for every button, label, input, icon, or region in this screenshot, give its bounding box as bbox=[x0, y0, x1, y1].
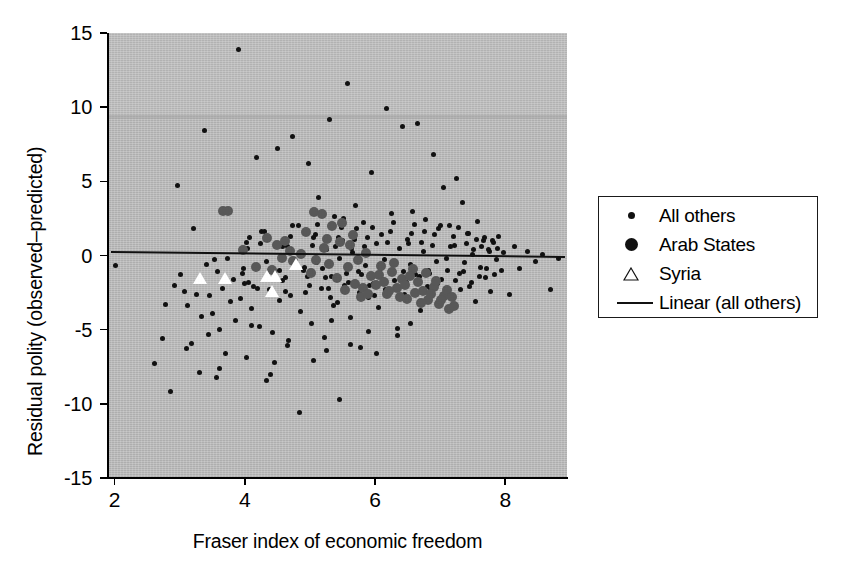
data-point-all-others bbox=[512, 244, 517, 249]
data-point-arab-state bbox=[301, 227, 311, 237]
legend-label-all-others: All others bbox=[659, 203, 735, 228]
y-axis-tick-label: -10 bbox=[48, 394, 92, 414]
y-axis-line bbox=[107, 33, 109, 479]
data-point-all-others bbox=[482, 235, 487, 240]
y-axis-tick-label: 0 bbox=[48, 246, 92, 266]
y-axis-title: Residual polity (observed–predicted) bbox=[24, 147, 47, 456]
y-axis-tick-label: 15 bbox=[48, 23, 92, 43]
data-point-all-others bbox=[296, 223, 301, 228]
data-point-arab-state bbox=[348, 230, 358, 240]
y-axis-tick bbox=[100, 477, 107, 479]
line-segment-icon bbox=[615, 288, 655, 317]
data-point-all-others bbox=[395, 326, 400, 331]
data-point-all-others bbox=[365, 235, 370, 240]
data-point-all-others bbox=[319, 286, 324, 291]
data-point-all-others bbox=[313, 232, 318, 237]
legend-label-arab-states: Arab States bbox=[659, 232, 755, 257]
data-point-arab-state bbox=[343, 262, 353, 272]
data-point-all-others bbox=[326, 286, 331, 291]
data-point-all-others bbox=[525, 249, 530, 254]
data-point-all-others bbox=[197, 370, 202, 375]
x-axis-tick bbox=[374, 478, 376, 485]
data-point-all-others bbox=[478, 265, 483, 270]
data-point-all-others bbox=[327, 117, 332, 122]
legend-item-all-others[interactable]: All others bbox=[599, 201, 817, 230]
data-point-all-others bbox=[175, 183, 180, 188]
data-point-all-others bbox=[409, 231, 414, 236]
data-point-all-others bbox=[434, 259, 439, 264]
data-point-all-others bbox=[477, 274, 482, 279]
data-point-all-others bbox=[421, 249, 426, 254]
data-point-all-others bbox=[418, 308, 423, 313]
data-point-all-others bbox=[496, 234, 501, 239]
data-point-arab-state bbox=[416, 298, 426, 308]
y-axis-tick bbox=[100, 106, 107, 108]
data-point-arab-state bbox=[223, 206, 233, 216]
data-point-arab-state bbox=[340, 285, 350, 295]
data-point-syria bbox=[268, 270, 282, 282]
data-point-all-others bbox=[255, 286, 260, 291]
legend-item-linear[interactable]: Linear (all others) bbox=[599, 288, 817, 317]
data-point-all-others bbox=[172, 283, 177, 288]
x-axis-tick-label: 6 bbox=[355, 489, 395, 510]
data-point-arab-state bbox=[317, 209, 327, 219]
data-point-all-others bbox=[223, 351, 228, 356]
y-axis-tick-label: 5 bbox=[48, 171, 92, 191]
legend-label-syria: Syria bbox=[659, 261, 701, 286]
data-point-syria bbox=[289, 258, 303, 270]
x-axis-tick bbox=[504, 478, 506, 485]
data-point-all-others bbox=[444, 256, 449, 261]
data-point-all-others bbox=[369, 170, 374, 175]
data-point-all-others bbox=[268, 372, 273, 377]
data-point-arab-state bbox=[426, 289, 436, 299]
data-point-all-others bbox=[270, 330, 275, 335]
chart-legend: All others Arab States Syria Linear (all… bbox=[598, 196, 818, 318]
x-axis-line bbox=[107, 477, 568, 479]
data-point-all-others bbox=[345, 81, 350, 86]
data-point-all-others bbox=[277, 298, 282, 303]
data-point-all-others bbox=[328, 295, 333, 300]
data-point-arab-state bbox=[335, 237, 345, 247]
data-point-all-others bbox=[258, 241, 263, 246]
data-point-all-others bbox=[374, 351, 379, 356]
y-axis-tick bbox=[100, 329, 107, 331]
data-point-all-others bbox=[438, 223, 443, 228]
data-point-arab-state bbox=[410, 288, 420, 298]
data-point-all-others bbox=[309, 321, 314, 326]
y-axis-tick bbox=[100, 32, 107, 34]
data-point-all-others bbox=[533, 259, 538, 264]
x-axis-tick-label: 2 bbox=[95, 489, 135, 510]
data-point-all-others bbox=[275, 146, 280, 151]
data-point-all-others bbox=[249, 323, 254, 328]
data-point-all-others bbox=[244, 355, 249, 360]
data-point-all-others bbox=[410, 209, 415, 214]
data-point-all-others bbox=[473, 299, 478, 304]
data-point-all-others bbox=[254, 155, 259, 160]
legend-item-syria[interactable]: Syria bbox=[599, 259, 817, 288]
data-point-arab-state bbox=[431, 276, 441, 286]
data-point-all-others bbox=[495, 246, 500, 251]
data-point-all-others bbox=[451, 234, 456, 239]
x-axis-tick-label: 4 bbox=[225, 489, 265, 510]
data-point-arab-state bbox=[262, 233, 272, 243]
data-point-all-others bbox=[272, 360, 277, 365]
data-point-all-others bbox=[348, 342, 353, 347]
legend-label-linear: Linear (all others) bbox=[659, 290, 801, 315]
data-point-arab-state bbox=[395, 292, 405, 302]
data-point-all-others bbox=[353, 203, 358, 208]
data-point-all-others bbox=[182, 289, 187, 294]
data-point-all-others bbox=[374, 241, 379, 246]
data-point-all-others bbox=[466, 231, 471, 236]
data-point-all-others bbox=[257, 324, 262, 329]
data-point-all-others bbox=[322, 335, 327, 340]
data-point-all-others bbox=[408, 321, 413, 326]
x-axis-title: Fraser index of economic freedom bbox=[108, 530, 567, 553]
data-point-arab-state bbox=[280, 236, 290, 246]
y-axis-tick bbox=[100, 255, 107, 257]
legend-item-arab-states[interactable]: Arab States bbox=[599, 230, 817, 259]
plot-background-shade bbox=[108, 33, 567, 119]
data-point-all-others bbox=[315, 222, 320, 227]
x-axis-tick bbox=[114, 478, 116, 485]
y-axis-tick bbox=[100, 403, 107, 405]
data-point-all-others bbox=[240, 271, 245, 276]
